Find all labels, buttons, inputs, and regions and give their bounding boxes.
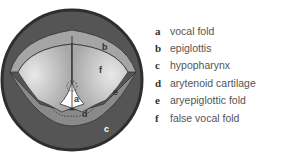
legend: avocal fold bepiglottis chypopharynx dar…: [155, 22, 256, 126]
legend-item: chypopharynx: [155, 57, 256, 74]
legend-item: earyepiglottic fold: [155, 92, 256, 109]
legend-item: avocal fold: [155, 22, 256, 39]
label-b: b: [102, 42, 108, 52]
legend-item: ffalse vocal fold: [155, 109, 256, 126]
label-c: c: [104, 124, 109, 134]
label-e: e: [113, 87, 118, 97]
legend-item: bepiglottis: [155, 39, 256, 56]
larynx-diagram: b f a e d c: [0, 0, 150, 168]
label-d: d: [82, 109, 88, 119]
legend-item: darytenoid cartilage: [155, 74, 256, 91]
